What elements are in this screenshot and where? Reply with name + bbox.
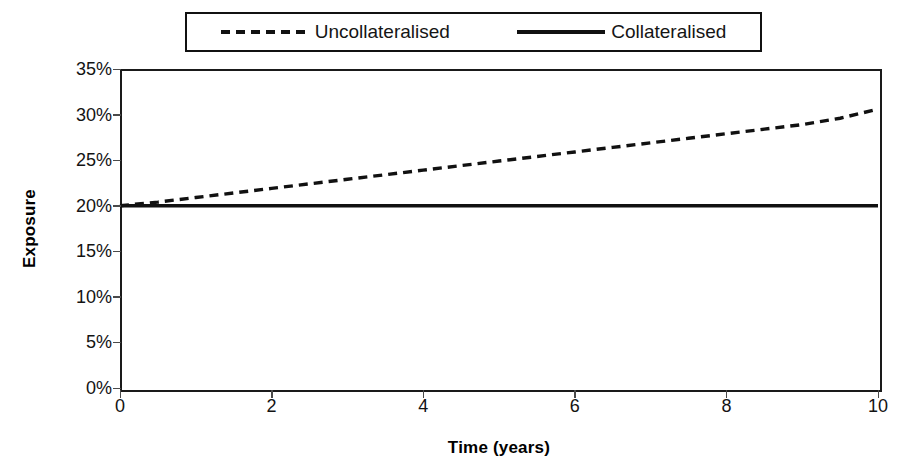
- chart-legend: Uncollateralised Collateralised: [185, 12, 762, 52]
- y-tick-label: 5%: [54, 332, 112, 353]
- x-tick-label: 2: [252, 396, 292, 417]
- y-tick-mark: [113, 160, 121, 162]
- y-tick-mark: [113, 342, 121, 344]
- legend-entry-collateralised: Collateralised: [517, 21, 726, 43]
- x-tick-mark: [878, 390, 880, 398]
- legend-swatch-solid-line: [517, 30, 605, 34]
- y-tick-mark: [113, 251, 121, 253]
- y-tick-label: 20%: [54, 195, 112, 216]
- y-tick-mark: [113, 69, 121, 71]
- y-axis-title: Exposure: [13, 69, 47, 388]
- line-series-uncollateralised: [120, 109, 878, 206]
- y-tick-mark: [113, 205, 121, 207]
- x-tick-label: 0: [100, 396, 140, 417]
- chart-container: Uncollateralised Collateralised Exposure…: [0, 0, 904, 475]
- y-tick-label: 10%: [54, 286, 112, 307]
- y-tick-label: 35%: [54, 59, 112, 80]
- y-tick-mark: [113, 296, 121, 298]
- legend-entry-uncollateralised: Uncollateralised: [221, 21, 450, 43]
- y-tick-label: 30%: [54, 104, 112, 125]
- x-tick-label: 4: [403, 396, 443, 417]
- x-tick-label: 10: [858, 396, 898, 417]
- x-tick-mark: [271, 390, 273, 398]
- legend-label-collateralised: Collateralised: [611, 21, 726, 43]
- y-tick-label: 25%: [54, 150, 112, 171]
- y-tick-mark: [113, 114, 121, 116]
- y-tick-label: 15%: [54, 241, 112, 262]
- y-tick-mark: [113, 388, 121, 390]
- legend-swatch-dashed-line: [221, 30, 309, 34]
- x-axis-title: Time (years): [120, 438, 878, 458]
- x-tick-mark: [726, 390, 728, 398]
- legend-label-uncollateralised: Uncollateralised: [315, 21, 450, 43]
- x-tick-mark: [423, 390, 425, 398]
- x-tick-mark: [574, 390, 576, 398]
- plot-lines: [120, 69, 878, 388]
- x-tick-label: 8: [706, 396, 746, 417]
- x-tick-mark: [120, 390, 122, 398]
- x-tick-label: 6: [555, 396, 595, 417]
